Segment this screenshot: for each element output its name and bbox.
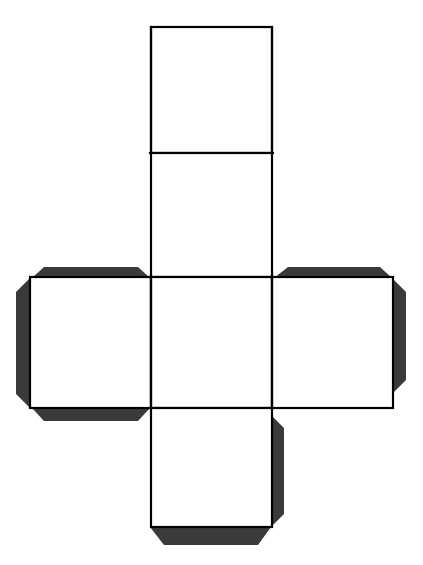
face-center (151, 277, 272, 408)
face-bottom (151, 408, 272, 527)
cube-net-diagram (0, 0, 423, 565)
face-upper-middle (151, 153, 272, 277)
tab-left-bottom (32, 408, 150, 421)
face-right (272, 277, 393, 408)
face-left (30, 277, 151, 408)
page-canvas: Cube Net Papercraft Template Cross-shape… (0, 0, 423, 565)
tab-bottom-edge (150, 527, 271, 545)
face-top (151, 27, 272, 153)
